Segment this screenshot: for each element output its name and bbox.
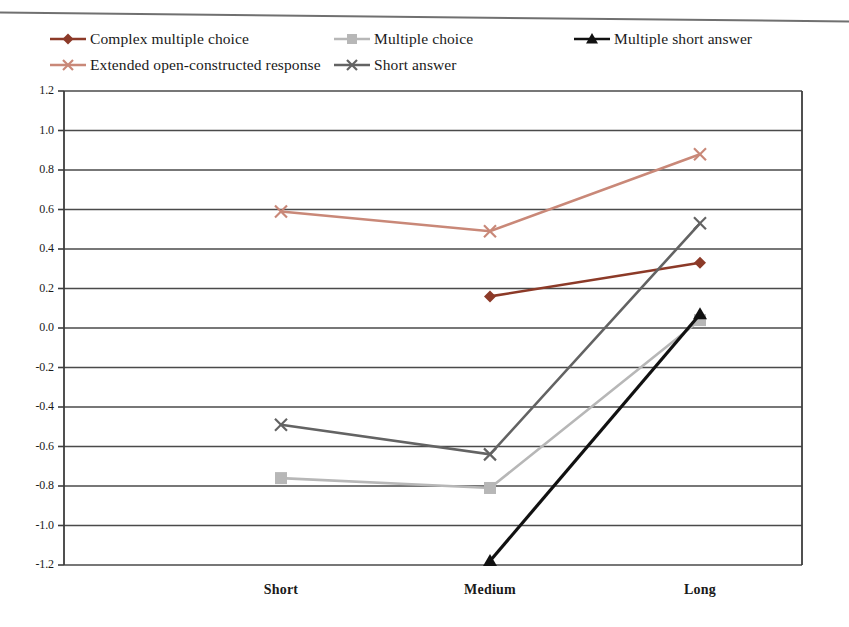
series-line [281, 223, 700, 454]
data-point-marker-diamond [694, 257, 706, 269]
chart-figure: Complex multiple choice Multiple choice [0, 0, 849, 627]
data-point-marker-diamond [484, 290, 496, 302]
series-short-answer [275, 217, 706, 460]
series-multiple-choice [275, 314, 706, 494]
y-axis-tick-label: 0.4 [20, 241, 54, 256]
series-line [490, 314, 700, 561]
y-axis-tick-label: 0.2 [20, 281, 54, 296]
y-axis-tick-label: -0.8 [20, 478, 54, 493]
y-axis-tick-label: -0.4 [20, 399, 54, 414]
series-multiple-short-answer [483, 307, 707, 566]
series-line [490, 263, 700, 297]
series-complex-multiple-choice [484, 257, 706, 303]
series-line [281, 154, 700, 231]
y-axis-tick-label: -1.2 [20, 557, 54, 572]
y-axis-tick-label: 1.0 [20, 123, 54, 138]
series-extended-open-constructed-response [275, 148, 706, 237]
data-point-marker-x [694, 148, 706, 160]
x-axis-tick-label-short: Short [221, 582, 341, 598]
y-axis-tick-label: -1.0 [20, 518, 54, 533]
x-axis-tick-label-long: Long [640, 582, 760, 598]
y-axis-tick-label: -0.2 [20, 360, 54, 375]
data-point-marker-x [694, 217, 706, 229]
data-point-marker-square [275, 472, 287, 484]
series-line [281, 320, 700, 488]
data-point-marker-triangle [693, 307, 707, 319]
y-axis-tick-label: 0.6 [20, 202, 54, 217]
data-series-layer [275, 148, 707, 566]
y-axis-tick-label: 0.8 [20, 162, 54, 177]
y-axis-tick-label: -0.6 [20, 439, 54, 454]
x-axis-tick-label-medium: Medium [430, 582, 550, 598]
data-point-marker-square [484, 482, 496, 494]
y-axis-tick-label: 1.2 [20, 83, 54, 98]
y-axis-tick-label: 0.0 [20, 320, 54, 335]
plot-area [0, 0, 849, 627]
